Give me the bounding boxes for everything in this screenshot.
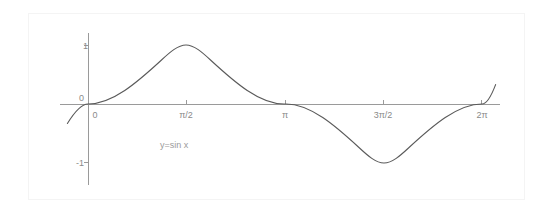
axes-group (60, 33, 500, 185)
sine-plot-svg (0, 0, 560, 213)
x-tick-label-pi-over-2: π/2 (179, 110, 193, 120)
y-tick-label-zero: 0 (70, 93, 84, 103)
x-tick-marks-group (187, 100, 482, 105)
figure-root: 1 0 -1 0 π/2 π 3π/2 2π y=sin x (0, 0, 560, 213)
function-annotation-label: y=sin x (160, 140, 188, 150)
x-tick-label-2pi: 2π (476, 110, 487, 120)
x-tick-label-3pi-over-2: 3π/2 (374, 110, 393, 120)
y-tick-label-negative-one: -1 (68, 158, 84, 168)
x-tick-label-zero: 0 (92, 110, 97, 120)
x-tick-label-pi: π (282, 110, 288, 120)
y-tick-label-positive-one: 1 (74, 41, 88, 51)
